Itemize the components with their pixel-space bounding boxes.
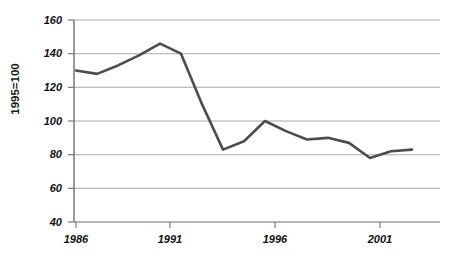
chart-container: 1995=100 160 140 120 100 80 60 40 1986 1…: [0, 0, 458, 263]
x-tick-label-1996: 1996: [249, 234, 301, 245]
y-tick-label-160: 160: [20, 15, 62, 26]
y-tick-label-40: 40: [20, 217, 62, 228]
x-tick-label-2001: 2001: [354, 234, 406, 245]
line-chart-plot: [0, 0, 458, 263]
y-tick-label-80: 80: [20, 149, 62, 160]
y-tick-label-120: 120: [20, 82, 62, 93]
x-tick-label-1986: 1986: [50, 234, 102, 245]
y-tick-label-100: 100: [20, 116, 62, 127]
y-axis-ticks: [68, 20, 74, 222]
x-tick-label-1991: 1991: [144, 234, 196, 245]
data-line-series-1: [76, 44, 412, 158]
x-axis-ticks: [76, 222, 380, 228]
y-tick-label-140: 140: [20, 48, 62, 59]
y-tick-label-60: 60: [20, 183, 62, 194]
gridlines: [74, 20, 440, 188]
